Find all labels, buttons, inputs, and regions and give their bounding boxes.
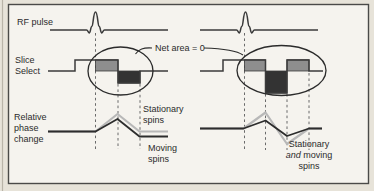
both-spins-label-moving: moving (301, 150, 333, 160)
moving-spins-label-line2: spins (148, 154, 170, 164)
stationary-spins-label-line1: Stationary (143, 104, 184, 114)
positive-gradient-lobe-right-1 (245, 60, 266, 71)
both-spins-label-and: and (286, 150, 302, 160)
positive-gradient-lobe-right-2 (287, 60, 309, 71)
moving-spins-label-line1: Moving (148, 143, 177, 153)
phase-label-line1: Relative (14, 112, 47, 122)
stationary-spins-label-line2: spins (143, 115, 165, 125)
negative-gradient-lobe-right (266, 71, 288, 93)
figure-canvas: RF pulse Slice Select Relative phase cha… (0, 0, 374, 191)
negative-gradient-lobe-left (118, 71, 140, 83)
both-spins-label-line1: Stationary (289, 139, 330, 149)
slice-select-label-line2: Select (15, 66, 41, 76)
slice-select-label-line1: Slice (15, 55, 35, 65)
phase-label-line2: phase (14, 123, 39, 133)
positive-gradient-lobe-left (96, 60, 119, 71)
both-spins-label-line3: spins (298, 161, 320, 171)
both-spins-label-line2: and moving (286, 150, 333, 160)
rf-pulse-label: RF pulse (17, 17, 53, 27)
net-area-label: Net area = 0 (155, 43, 205, 53)
mri-pulse-sequence-figure: RF pulse Slice Select Relative phase cha… (0, 0, 374, 191)
phase-label-line3: change (14, 134, 44, 144)
